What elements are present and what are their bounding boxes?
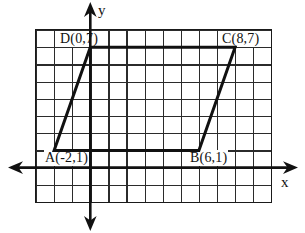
x-axis-arrow-right <box>283 161 298 174</box>
y-axis-arrow-up <box>84 2 97 17</box>
y-axis-arrow-down <box>84 216 97 231</box>
x-axis-label: x <box>281 175 289 190</box>
vertex-label-c: C(8,7) <box>221 31 260 47</box>
y-axis-label: y <box>98 3 106 18</box>
vertex-label-d: D(0,7) <box>59 31 99 47</box>
coordinate-grid-figure: D(0,7) C(8,7) A(-2,1) B(6,1) y x <box>0 0 305 233</box>
vertex-label-b: B(6,1) <box>189 150 228 166</box>
x-axis-arrow-left <box>8 161 23 174</box>
grid <box>35 29 272 203</box>
vertex-label-a: A(-2,1) <box>44 150 89 166</box>
